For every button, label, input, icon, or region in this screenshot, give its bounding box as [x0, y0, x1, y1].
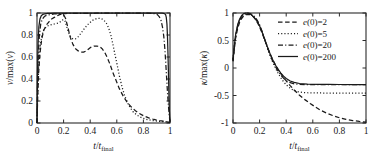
- y-tick-label: 0: [28, 118, 33, 128]
- axis-ticks: [37, 13, 170, 123]
- curve-dashed: [37, 14, 170, 123]
- y-tick-label: 0: [224, 63, 229, 73]
- curve-dotted: [37, 18, 170, 123]
- curve-dotted: [233, 14, 366, 93]
- data-curves: [233, 13, 366, 122]
- x-tick-label: 0.6: [111, 126, 123, 136]
- x-axis-label: t/tfinal: [93, 141, 113, 152]
- x-tick-label: 0.2: [58, 126, 70, 136]
- y-tick-label: 0.2: [21, 96, 33, 106]
- legend-label: e(0)=200: [303, 52, 337, 62]
- x-tick-label: 0.6: [307, 126, 319, 136]
- y-tick-label: 0.4: [21, 74, 33, 84]
- y-tick-label: 0.8: [21, 30, 33, 40]
- figure-container: 00.20.40.60.8100.20.40.60.81 t/tfinal v/…: [0, 0, 392, 160]
- curve-solid: [233, 13, 366, 85]
- x-tick-label: 1: [364, 126, 369, 136]
- curve-solid: [37, 13, 170, 123]
- x-tick-label: 0: [35, 126, 40, 136]
- y-tick-label: 1: [224, 8, 229, 18]
- x-tick-label: 0: [231, 126, 236, 136]
- curve-dashdot: [233, 13, 366, 85]
- y-tick-label: -0.5: [214, 91, 229, 101]
- x-tick-label: 0.4: [84, 126, 96, 136]
- curve-dashdot: [37, 13, 170, 123]
- plot-frame: [37, 13, 170, 123]
- y-tick-label: 1: [28, 8, 33, 18]
- y-axis-label: κ/max(κ): [199, 51, 210, 85]
- legend-label: e(0)=2: [303, 17, 327, 27]
- axis-tick-labels: 00.20.40.60.8100.20.40.60.81: [21, 8, 173, 136]
- legend-label: e(0)=5: [303, 29, 328, 39]
- x-tick-label: 0.8: [333, 126, 345, 136]
- plot-frame: [233, 13, 366, 123]
- data-curves: [37, 13, 170, 123]
- velocity-plot-svg: 00.20.40.60.8100.20.40.60.81 t/tfinal v/…: [0, 0, 196, 160]
- x-tick-label: 0.8: [137, 126, 149, 136]
- x-tick-label: 0.2: [254, 126, 266, 136]
- curve-dashed: [233, 14, 366, 122]
- axis-ticks: [233, 13, 366, 123]
- x-axis-label: t/tfinal: [289, 141, 309, 152]
- velocity-panel: 00.20.40.60.8100.20.40.60.81 t/tfinal v/…: [0, 0, 196, 160]
- curvature-panel: 00.20.40.60.81-1-0.500.51 t/tfinal κ/max…: [196, 0, 392, 160]
- legend: e(0)=2e(0)=5e(0)=20e(0)=200: [278, 17, 337, 62]
- x-tick-label: 1: [168, 126, 173, 136]
- legend-label: e(0)=20: [303, 40, 332, 50]
- curvature-plot-svg: 00.20.40.60.81-1-0.500.51 t/tfinal κ/max…: [196, 0, 392, 160]
- x-tick-label: 0.4: [280, 126, 292, 136]
- y-axis-label: v/max(v): [5, 51, 16, 85]
- y-tick-label: 0.5: [217, 36, 229, 46]
- y-tick-label: 0.6: [21, 52, 33, 62]
- y-tick-label: -1: [221, 118, 229, 128]
